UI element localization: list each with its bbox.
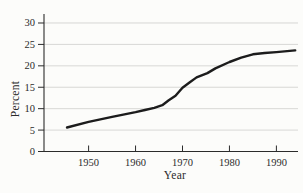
y-tick-label: 10 bbox=[25, 103, 36, 114]
y-tick-label: 25 bbox=[25, 39, 36, 50]
x-tick-label: 1960 bbox=[125, 157, 146, 168]
y-tick-label: 30 bbox=[25, 17, 36, 28]
y-tick-label: 5 bbox=[30, 125, 35, 136]
data-line-percent bbox=[67, 50, 295, 127]
x-tick-label: 1990 bbox=[266, 157, 287, 168]
x-tick-label: 1980 bbox=[219, 157, 240, 168]
line-chart-figure: 05101520253019501960197019801990 Percent… bbox=[0, 0, 303, 193]
y-tick-label: 0 bbox=[30, 146, 35, 157]
line-chart: 05101520253019501960197019801990 bbox=[0, 0, 303, 193]
x-tick-label: 1970 bbox=[172, 157, 193, 168]
x-tick-label: 1950 bbox=[78, 157, 99, 168]
y-tick-label: 15 bbox=[25, 82, 36, 93]
y-tick-label: 20 bbox=[25, 60, 36, 71]
